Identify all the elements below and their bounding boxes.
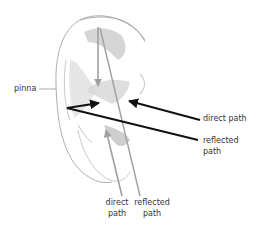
right-reflected-path-label-line2: path xyxy=(203,147,221,157)
ear-upper-shading xyxy=(84,28,125,60)
bottom-direct-path-label-line2: path xyxy=(100,209,134,219)
black-direct-path-arrow xyxy=(129,101,200,120)
bottom-reflected-path-label-line2: path xyxy=(132,209,172,219)
bottom-reflected-path-label-line1: reflected xyxy=(132,198,172,208)
right-reflected-path-label-line1: reflected xyxy=(203,136,239,146)
ear-right-detail xyxy=(140,74,145,94)
bottom-direct-path-label-line1: direct xyxy=(100,198,134,208)
ear-antihelix xyxy=(88,80,130,104)
pinna-label: pinna xyxy=(14,84,36,94)
black-reflected-path-line xyxy=(67,108,198,140)
right-direct-path-label: direct path xyxy=(203,114,247,124)
